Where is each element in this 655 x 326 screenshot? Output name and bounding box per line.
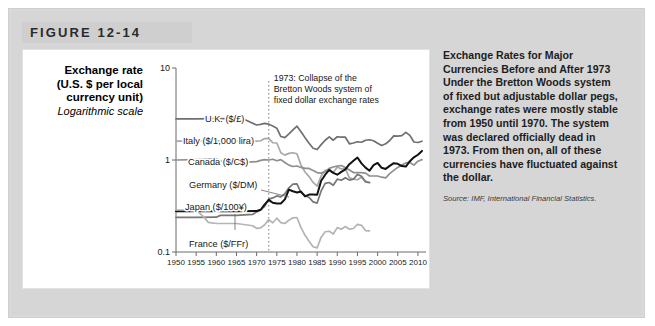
series-label-text: Japan ($/100¥) [185,202,247,212]
y-axis-title-line-3: currency unit) [23,91,143,105]
series-label: U.K. ($/£)U.K. ($/£) [205,114,244,124]
chart-card: Exchange rate (U.S. $ per local currency… [22,49,430,289]
x-axis-ticks: 1950195519601965197019751980198519901995… [167,252,427,267]
caption-heading-wrap: Exchange Rates for Major Currencies Befo… [443,49,621,185]
series-label: Italy ($/1,000 lira)Italy ($/1,000 lira) [183,136,254,146]
y-tick-label: 10 [160,64,170,73]
y-axis-title-line-2: (U.S. $ per local [23,78,143,92]
y-axis-title-block: Exchange rate (U.S. $ per local currency… [23,64,143,118]
x-tick-label: 1995 [349,258,367,267]
x-tick-label: 1980 [288,258,306,267]
x-tick-label: 1990 [328,258,346,267]
figure-number-label: FIGURE 12-14 [22,22,192,43]
caption-body: Under the Bretton Woods system of fixed … [443,76,618,183]
y-axis-ticks: 1010.1 [157,64,176,257]
x-tick-label: 2005 [389,258,407,267]
x-tick-label: 1970 [248,258,266,267]
annotation-line-1: 1973: Collapse of the [274,73,357,83]
caption-heading: Exchange Rates for Major Currencies Befo… [443,49,610,75]
x-tick-label: 2000 [369,258,387,267]
y-axis-title-line-1: Exchange rate [23,64,143,78]
x-tick-label: 1950 [167,258,185,267]
exchange-rate-line-chart: 1010.1 195019551960196519701975198019851… [143,64,429,276]
series-label-text: France ($/FFr) [189,239,248,249]
x-tick-label: 1965 [228,258,246,267]
series-label-text: Germany ($/DM) [189,180,257,190]
series-label-text: Canada ($/C$) [188,157,248,167]
series-label: Germany ($/DM)Germany ($/DM) [189,180,289,197]
series-label: France ($/FFr)France ($/FFr) [189,239,248,249]
series-label-text: U.K. ($/£) [205,114,244,124]
x-tick-label: 1955 [187,258,205,267]
caption-source: Source: IMF, International Financial Sta… [443,194,621,204]
y-tick-label: 1 [165,155,170,165]
annotation-line-2: Bretton Woods system of [274,84,373,94]
y-axis-scale-note: Logarithmic scale [23,105,143,119]
series-label-group: U.K. ($/£)U.K. ($/£)Italy ($/1,000 lira)… [183,114,289,249]
caption-column: Exchange Rates for Major Currencies Befo… [443,49,621,204]
x-tick-label: 1960 [207,258,225,267]
x-tick-label: 1985 [308,258,326,267]
annotation-line-3: fixed dollar exchange rates [274,95,380,105]
y-tick-label: 0.1 [157,247,170,257]
series-label-text: Italy ($/1,000 lira) [183,136,254,146]
x-tick-label: 1975 [268,258,286,267]
series-label: Canada ($/C$)Canada ($/C$) [188,157,248,167]
x-tick-label: 2010 [409,258,427,267]
